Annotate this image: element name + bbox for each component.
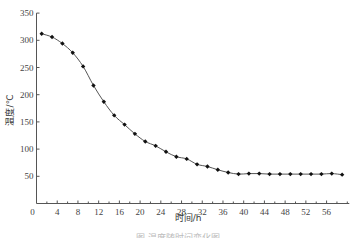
data-point-marker	[236, 172, 240, 176]
x-tick-label: 44	[260, 207, 270, 217]
data-point-marker	[195, 162, 199, 166]
x-tick-label: 4	[55, 207, 60, 217]
data-point-marker	[205, 164, 209, 168]
x-axis-title: 时间/h	[175, 212, 202, 223]
y-tick-label: 100	[20, 144, 34, 154]
x-tick-label: 52	[301, 207, 310, 217]
series-line	[42, 34, 342, 175]
y-tick-label: 150	[20, 117, 34, 127]
data-point-marker	[340, 172, 344, 176]
data-point-marker	[247, 171, 251, 175]
data-point-marker	[226, 170, 230, 174]
x-tick-label: 12	[94, 207, 103, 217]
y-tick-label: 200	[20, 90, 34, 100]
temperature-series	[39, 32, 344, 177]
data-point-marker	[39, 32, 43, 36]
x-tick-label: 36	[218, 207, 228, 217]
x-tick-label: 20	[136, 207, 146, 217]
data-point-marker	[91, 83, 95, 87]
y-tick-label: 50	[25, 171, 35, 181]
data-point-marker	[185, 157, 189, 161]
x-tick-label: 24	[156, 207, 166, 217]
data-point-marker	[288, 172, 292, 176]
y-tick-label: 250	[20, 63, 34, 73]
x-tick-label: 40	[239, 207, 249, 217]
data-point-marker	[174, 155, 178, 159]
data-point-marker	[330, 171, 334, 175]
x-tick-label: 16	[115, 207, 125, 217]
figure-caption: 图 温度随时间变化图	[136, 232, 220, 238]
y-tick-label: 300	[20, 35, 34, 45]
data-point-marker	[309, 172, 313, 176]
data-point-marker	[319, 172, 323, 176]
data-point-marker	[267, 172, 271, 176]
y-tick-label: 350	[20, 8, 34, 18]
data-point-marker	[257, 171, 261, 175]
y-axis: 50100150200250300350	[20, 8, 40, 203]
y-axis-title: 温度/℃	[4, 94, 15, 125]
data-point-marker	[164, 150, 168, 154]
data-point-marker	[278, 172, 282, 176]
x-tick-label: 48	[281, 207, 291, 217]
x-tick-label: 0	[30, 207, 35, 217]
data-point-marker	[298, 172, 302, 176]
data-point-marker	[216, 168, 220, 172]
x-tick-label: 8	[76, 207, 81, 217]
line-chart: 50100150200250300350 0481216202428323640…	[0, 0, 356, 238]
data-point-marker	[50, 35, 54, 39]
x-tick-label: 56	[322, 207, 332, 217]
data-point-marker	[153, 144, 157, 148]
